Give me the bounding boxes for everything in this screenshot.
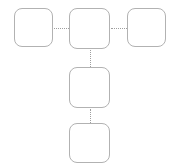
node-box-2[interactable] — [69, 8, 110, 49]
diagram-canvas — [0, 0, 179, 165]
node-box-4[interactable] — [69, 67, 110, 108]
node-box-3[interactable] — [127, 8, 166, 47]
connector-node1-node2 — [54, 28, 69, 29]
node-box-4-label — [70, 68, 109, 107]
node-box-2-label — [70, 9, 109, 48]
node-box-5[interactable] — [69, 123, 110, 163]
node-box-3-label — [128, 9, 165, 46]
node-box-5-label — [70, 124, 109, 162]
node-box-1[interactable] — [14, 8, 53, 47]
connector-node2-node4 — [90, 50, 91, 67]
connector-node2-node3 — [111, 28, 127, 29]
node-box-1-label — [15, 9, 52, 46]
connector-node4-node5 — [90, 109, 91, 123]
